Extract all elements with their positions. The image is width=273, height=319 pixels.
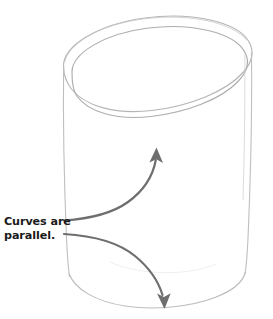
top-inner-ellipse-path: [72, 27, 247, 118]
right-side-line: [245, 53, 252, 275]
figure-root: Curves are parallel.: [0, 0, 273, 319]
annotation-label: Curves are parallel.: [4, 215, 71, 243]
right-inner-wall-line: [243, 55, 245, 201]
annotation-label-line-1: Curves are: [4, 215, 71, 228]
upper-arrow-curve: [64, 160, 156, 221]
top-outer-ellipse-path: [63, 16, 251, 112]
lower-arrow-head: [157, 293, 171, 309]
annotation-label-line-2: parallel.: [4, 229, 55, 242]
lower-arrow-curve: [64, 234, 163, 295]
top-outer-ellipse-second-pass: [65, 17, 247, 62]
interior-tone-mark: [110, 262, 216, 273]
left-side-line: [63, 66, 69, 277]
cylinder-diagram: Curves are parallel.: [0, 0, 273, 319]
cylinder-drawing: [63, 16, 251, 308]
annotation-arrows: [64, 148, 171, 310]
bottom-arc: [69, 273, 245, 308]
